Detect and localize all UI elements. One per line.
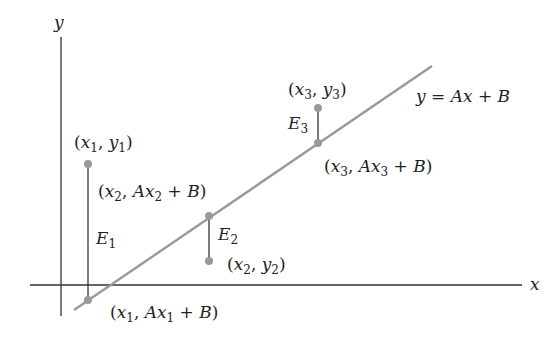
data-point-2-label: (x2, y2)	[227, 254, 286, 277]
line-point-2	[205, 212, 213, 220]
data-point-3	[314, 104, 322, 112]
line-point-3-label: (x3, Ax3 + B)	[324, 156, 432, 179]
line-equation: y = Ax + B	[415, 86, 510, 106]
data-point-2	[205, 257, 213, 265]
line-point-2-label: (x2, Ax2 + B)	[98, 181, 206, 204]
data-point-1	[84, 160, 92, 168]
data-point-1-label: (x1, y1)	[74, 132, 133, 155]
y-axis-label: y	[53, 12, 64, 32]
x-axis-label: x	[530, 274, 540, 294]
error-label-3: E3	[287, 113, 308, 136]
data-point-3-label: (x3, y3)	[288, 79, 347, 102]
line-point-1-label: (x1, Ax1 + B)	[110, 302, 218, 325]
least-squares-diagram: y x y = Ax + B (x1, y1) (x1, Ax1 + B) (x…	[0, 0, 551, 337]
line-point-3	[314, 139, 322, 147]
error-label-2: E2	[217, 224, 238, 247]
line-point-1	[84, 296, 92, 304]
error-label-1: E1	[95, 228, 116, 251]
